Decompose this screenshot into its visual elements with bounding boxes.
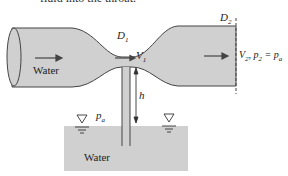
label-exit-conditions: V2, p2 = pa	[239, 49, 282, 63]
label-v1: V1	[136, 49, 146, 64]
pipe-inlet-ellipse	[7, 28, 21, 86]
height-dimension	[134, 68, 138, 123]
label-pa: pa	[96, 109, 105, 124]
label-d2: D2	[220, 11, 231, 26]
venturi-diagram	[0, 0, 288, 176]
label-d1: D1	[117, 29, 128, 44]
label-h: h	[139, 89, 145, 101]
label-water-tank: Water	[84, 151, 110, 163]
suction-tube	[122, 67, 130, 147]
label-water-pipe: Water	[33, 64, 59, 76]
